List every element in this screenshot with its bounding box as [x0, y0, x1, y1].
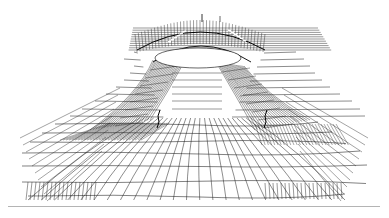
wireframe-mesh-figure: [0, 0, 389, 218]
mesh-drawing: [0, 0, 389, 218]
bottom-rule-divider: [8, 206, 380, 207]
